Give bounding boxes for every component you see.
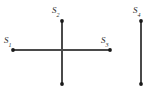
- label-s2-subscript: 2: [57, 12, 60, 18]
- label-s1-subscript: 1: [9, 42, 12, 48]
- label-s3-base: S: [101, 35, 106, 45]
- endpoint-bottom: [60, 82, 64, 86]
- label-s2: S2: [52, 6, 60, 17]
- label-s4-subscript: 4: [138, 12, 141, 18]
- diagram-canvas: S1 S2 S3 S4: [0, 0, 160, 99]
- label-s3: S3: [101, 36, 109, 47]
- label-s1-base: S: [4, 35, 9, 45]
- label-s3-subscript: 3: [106, 42, 109, 48]
- endpoint-s1: [11, 48, 15, 52]
- endpoint-s3: [108, 48, 112, 52]
- label-s1: S1: [4, 36, 12, 47]
- label-s4-base: S: [133, 5, 138, 15]
- endpoint-s4: [139, 19, 143, 23]
- label-s4: S4: [133, 6, 141, 17]
- label-s2-base: S: [52, 5, 57, 15]
- endpoint-isolated-bottom: [139, 82, 143, 86]
- endpoint-s2: [60, 19, 64, 23]
